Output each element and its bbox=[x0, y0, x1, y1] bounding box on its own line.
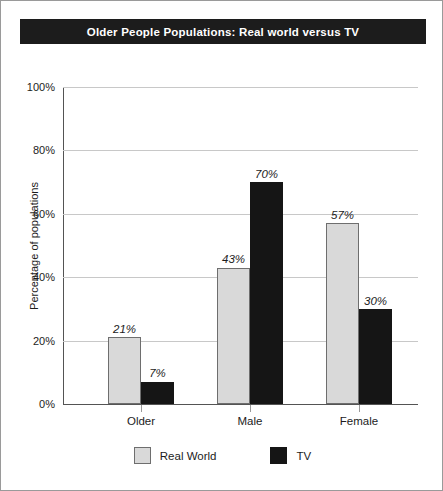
legend-entry-tv: TV bbox=[270, 447, 311, 464]
x-tick-label-male: Male bbox=[190, 415, 310, 427]
legend-swatch-real-world-icon bbox=[134, 447, 151, 464]
bar-older-tv bbox=[141, 382, 174, 404]
bar-value-older-real-world: 21% bbox=[90, 323, 160, 335]
x-tick-label-female: Female bbox=[299, 415, 419, 427]
bar-value-female-real-world: 57% bbox=[308, 209, 378, 221]
bar-female-real-world bbox=[326, 223, 359, 404]
y-tick-label-80: 80% bbox=[9, 144, 55, 156]
y-tick-label-40: 40% bbox=[9, 271, 55, 283]
y-tick-label-20: 20% bbox=[9, 335, 55, 347]
y-tick-label-60: 60% bbox=[9, 208, 55, 220]
bar-male-tv bbox=[250, 182, 283, 404]
plot-area: 21% 7% 43% 70% 57% 30% bbox=[63, 87, 418, 404]
legend-swatch-tv-icon bbox=[270, 447, 287, 464]
legend-label-tv: TV bbox=[296, 450, 311, 462]
bar-female-tv bbox=[359, 309, 392, 404]
x-tick-mark-male bbox=[250, 405, 251, 412]
chart-title: Older People Populations: Real world ver… bbox=[87, 26, 359, 38]
x-axis-line bbox=[63, 404, 418, 405]
bar-value-male-tv: 70% bbox=[232, 168, 302, 180]
gridline-80 bbox=[63, 150, 418, 151]
x-tick-mark-female bbox=[359, 405, 360, 412]
y-tick-label-0: 0% bbox=[9, 398, 55, 410]
legend-label-real-world: Real World bbox=[160, 450, 217, 462]
bar-value-female-tv: 30% bbox=[341, 295, 411, 307]
y-axis-title: Percentage of populations bbox=[28, 156, 40, 336]
chart-figure: Older People Populations: Real world ver… bbox=[0, 0, 443, 491]
x-tick-label-older: Older bbox=[81, 415, 201, 427]
bar-value-older-tv: 7% bbox=[123, 367, 193, 379]
bar-male-real-world bbox=[217, 268, 250, 404]
chart-legend: Real World TV bbox=[1, 447, 443, 464]
gridline-100 bbox=[63, 87, 418, 88]
y-tick-label-100: 100% bbox=[9, 81, 55, 93]
chart-title-bar: Older People Populations: Real world ver… bbox=[20, 19, 426, 44]
legend-entry-real-world: Real World bbox=[134, 447, 217, 464]
x-tick-mark-older bbox=[141, 405, 142, 412]
